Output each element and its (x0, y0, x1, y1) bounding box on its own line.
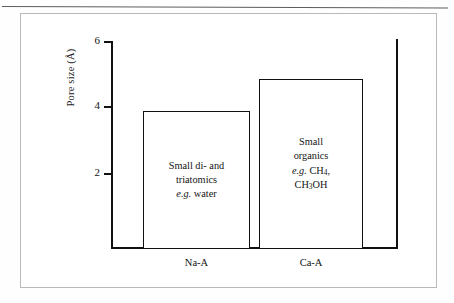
y-tick-label-2: 2 (78, 166, 100, 178)
bar-na-a-line-3: water (191, 188, 216, 199)
y-tick-mark-6 (104, 41, 111, 43)
figure-frame: Pore size (Å) 6 4 2 Small di- and triato… (20, 13, 437, 288)
x-axis-label-na-a: Na-A (143, 257, 250, 268)
bar-chart-plot: Pore size (Å) 6 4 2 Small di- and triato… (21, 14, 438, 289)
bar-ca-a-line-2: organics (294, 150, 329, 161)
bar-ca-a-line-4-suffix: OH (313, 179, 328, 190)
y-tick-label-6: 6 (78, 34, 100, 46)
y-axis-line (111, 41, 113, 249)
y-tick-mark-2 (104, 173, 111, 175)
bar-ca-a-line-4: CH (295, 179, 309, 190)
bar-ca-a-line-3-italic: e.g. (292, 165, 307, 176)
bar-ca-a[interactable]: Small organics e.g. CH4, CH3OH (259, 79, 363, 249)
y-tick-label-4: 4 (78, 99, 100, 111)
bar-na-a-line-2: triatomics (176, 174, 217, 185)
y-axis-label: Pore size (Å) (65, 23, 76, 133)
y-tick-mark-4 (104, 106, 111, 108)
bar-ca-a-line-3-suffix: , (327, 165, 330, 176)
bar-na-a-line-1: Small di- and (169, 160, 224, 171)
page-top-rule (2, 6, 448, 8)
bar-na-a-annotation: Small di- and triatomics e.g. water (165, 159, 228, 202)
bar-na-a-line-3-italic: e.g. (176, 188, 191, 199)
plot-right-wall (396, 39, 398, 249)
x-axis-label-ca-a: Ca-A (259, 257, 363, 268)
bar-na-a[interactable]: Small di- and triatomics e.g. water (143, 111, 250, 249)
bar-ca-a-line-1: Small (299, 136, 323, 147)
figure-page: Pore size (Å) 6 4 2 Small di- and triato… (0, 0, 454, 303)
bar-ca-a-line-3: CH (307, 165, 324, 176)
bar-ca-a-annotation: Small organics e.g. CH4, CH3OH (288, 135, 334, 193)
